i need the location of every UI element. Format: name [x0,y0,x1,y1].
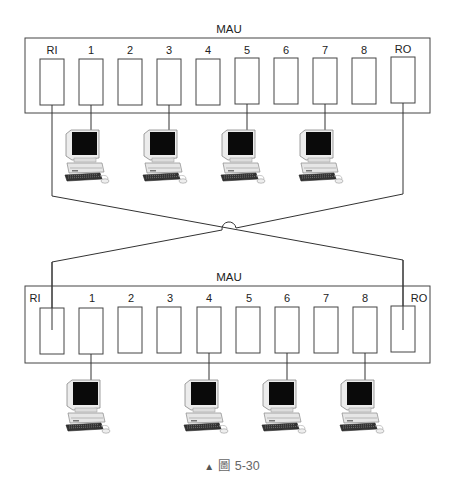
bottom-mau-label: MAU [216,271,242,283]
caption-text: 圖 5-30 [218,459,260,473]
top-port-ro [391,57,415,103]
bottom-port-6 [275,307,299,353]
caption-triangle-icon: ▲ [204,461,214,472]
top-mau-label: MAU [216,23,242,35]
bottom-workstation-4-icon [184,380,228,433]
top-workstation-3-icon [143,130,187,183]
bottom-port-1 [79,308,103,354]
bottom-port-label-4: 4 [206,292,212,304]
top-port-label-ri: RI [47,44,58,56]
bottom-mau: MAU RI 1 2 3 4 5 6 7 8 RO [25,271,430,363]
bottom-port-label-5: 5 [246,292,252,304]
bottom-port-label-2: 2 [128,292,134,304]
top-drop-cables [91,104,325,130]
figure-caption: ▲圖 5-30 [0,455,464,474]
bottom-workstation-8-icon [340,380,384,433]
top-port-label-3: 3 [166,44,172,56]
top-port-label-8: 8 [361,44,367,56]
top-port-label-5: 5 [244,44,250,56]
mau-ring-diagram: MAU RI 1 2 3 4 5 6 7 8 RO [0,0,464,483]
bottom-port-label-ri: RI [30,292,41,304]
top-port-8 [352,58,376,104]
bottom-port-2 [118,307,142,353]
top-workstation-7-icon [299,130,343,183]
top-workstation-5-icon [221,130,265,183]
bottom-drop-cables [91,353,365,380]
top-port-label-1: 1 [88,44,94,56]
top-port-1 [79,59,103,105]
top-port-2 [118,59,142,105]
bottom-port-label-6: 6 [284,292,290,304]
bottom-port-label-3: 3 [167,292,173,304]
bottom-port-4 [197,307,221,353]
bottom-port-label-7: 7 [323,292,329,304]
bottom-workstation-6-icon [262,380,306,433]
bottom-port-5 [236,307,260,353]
top-port-4 [196,59,220,105]
top-workstation-1-icon [65,130,109,183]
top-port-label-ro: RO [395,43,412,55]
top-port-label-6: 6 [283,44,289,56]
bottom-port-3 [157,307,181,353]
top-port-ri [40,59,64,105]
bottom-port-8 [353,307,377,353]
bottom-port-label-1: 1 [89,292,95,304]
bottom-port-label-ro: RO [411,292,428,304]
top-port-label-7: 7 [322,44,328,56]
top-port-6 [274,58,298,104]
bottom-workstation-1-icon [66,380,110,433]
top-port-3 [157,59,181,105]
top-mau: MAU RI 1 2 3 4 5 6 7 8 RO [25,23,430,113]
top-port-5 [235,58,259,104]
bottom-port-label-8: 8 [362,292,368,304]
bottom-port-7 [314,307,338,353]
top-port-label-2: 2 [127,44,133,56]
top-port-label-4: 4 [205,44,211,56]
top-port-7 [313,58,337,104]
